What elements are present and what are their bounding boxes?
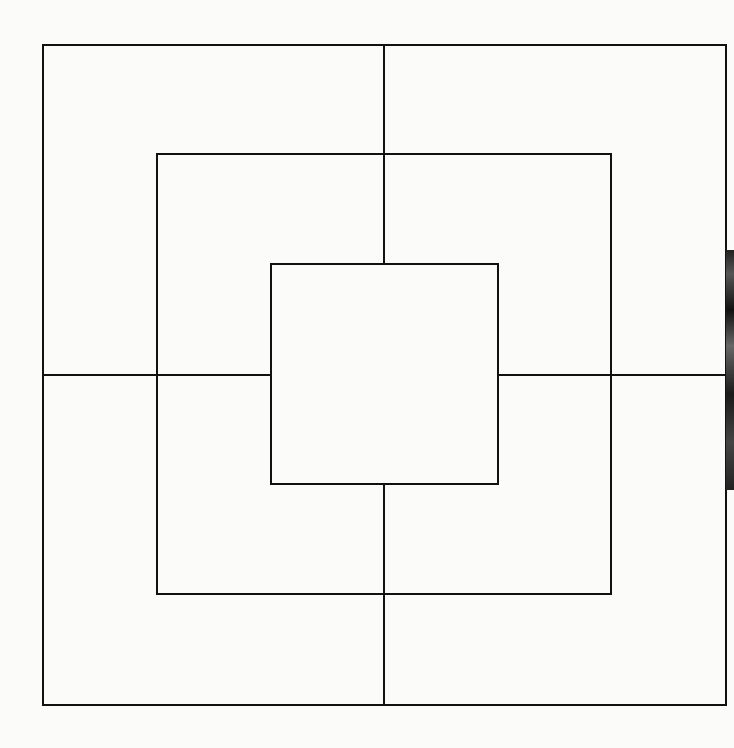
scan-edge-shadow [726,250,734,490]
inner-square [271,264,498,484]
morris-board [0,0,734,748]
